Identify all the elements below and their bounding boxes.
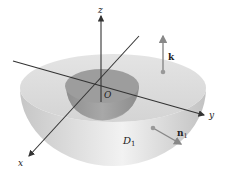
k-vector-label: k <box>168 52 175 62</box>
x-axis-label: x <box>18 158 23 168</box>
n1-vector-base-dot <box>151 126 156 131</box>
diagram-canvas: z y x O k D1 n1 <box>0 0 225 178</box>
origin-label: O <box>104 90 112 100</box>
k-vector-base-dot <box>161 70 166 75</box>
hemisphere-diagram: z y x O k D1 n1 <box>0 0 225 178</box>
z-axis-label: z <box>97 5 103 15</box>
y-axis-label: y <box>208 110 215 120</box>
